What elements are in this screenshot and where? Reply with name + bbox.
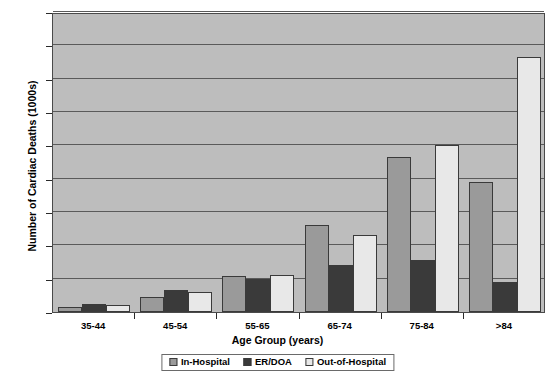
- legend-item-in-hospital[interactable]: In-Hospital: [169, 357, 230, 367]
- legend-swatch-icon: [305, 358, 313, 366]
- bar-3544-er-doa: [82, 304, 106, 312]
- plot-area: [52, 13, 545, 313]
- legend-label: ER/DOA: [255, 357, 292, 367]
- bar-3544-out-of-hospital: [106, 305, 130, 313]
- x-tick-mark: [463, 313, 464, 319]
- x-tick-label: 45-54: [130, 320, 220, 331]
- legend-label: Out-of-Hospital: [317, 357, 386, 367]
- bar-84-out-of-hospital: [517, 57, 541, 312]
- bar-4554-in-hospital: [140, 297, 164, 312]
- bar-6574-out-of-hospital: [353, 235, 377, 312]
- x-tick-label: 55-65: [212, 320, 302, 331]
- y-axis-title: Number of Cardiac Deaths (1000s): [26, 46, 38, 286]
- gridline: [53, 78, 544, 79]
- bar-7584-er-doa: [411, 260, 435, 312]
- x-tick-label: >84: [459, 320, 549, 331]
- bar-5565-out-of-hospital: [270, 275, 294, 312]
- gridline: [53, 44, 544, 45]
- gridline: [53, 111, 544, 112]
- x-axis-title: Age Group (years): [0, 334, 555, 346]
- bar-6574-er-doa: [329, 265, 353, 312]
- x-tick-mark: [134, 313, 135, 319]
- bar-3544-in-hospital: [58, 307, 82, 312]
- bar-4554-out-of-hospital: [188, 292, 212, 312]
- bar-7584-in-hospital: [387, 157, 411, 312]
- bar-84-in-hospital: [469, 182, 493, 312]
- gridline: [53, 178, 544, 179]
- gridline: [53, 11, 544, 12]
- chart-legend: In-HospitalER/DOAOut-of-Hospital: [161, 354, 394, 371]
- cardiac-deaths-bar-chart: Number of Cardiac Deaths (1000s) 0204060…: [0, 0, 555, 383]
- legend-swatch-icon: [169, 358, 177, 366]
- legend-swatch-icon: [243, 358, 251, 366]
- bar-6574-in-hospital: [305, 225, 329, 312]
- bar-5565-in-hospital: [222, 276, 246, 312]
- x-tick-label: 35-44: [48, 320, 138, 331]
- x-tick-mark: [299, 313, 300, 319]
- x-tick-mark: [381, 313, 382, 319]
- legend-item-out-of-hospital[interactable]: Out-of-Hospital: [305, 357, 386, 367]
- y-tick-mark: [46, 313, 52, 314]
- x-tick-label: 75-84: [377, 320, 467, 331]
- bar-4554-er-doa: [164, 290, 188, 312]
- bar-5565-er-doa: [246, 279, 270, 312]
- bar-84-er-doa: [493, 282, 517, 312]
- x-tick-label: 65-74: [295, 320, 385, 331]
- legend-item-er-doa[interactable]: ER/DOA: [243, 357, 292, 367]
- bar-7584-out-of-hospital: [435, 145, 459, 312]
- x-tick-mark: [216, 313, 217, 319]
- gridline: [53, 144, 544, 145]
- legend-label: In-Hospital: [181, 357, 230, 367]
